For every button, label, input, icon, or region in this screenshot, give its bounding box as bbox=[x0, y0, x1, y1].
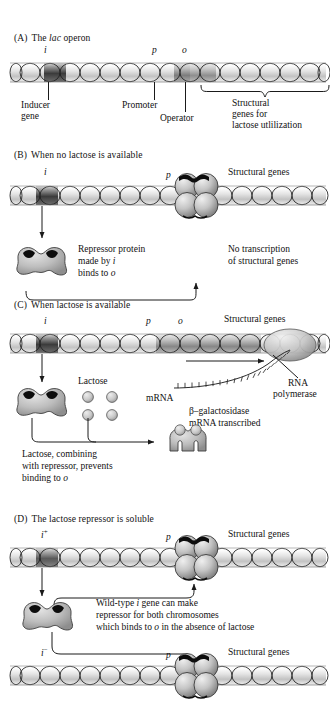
repressor-bound-to-operator-d-top bbox=[174, 534, 220, 582]
no-transcription-line2: of structural genes bbox=[228, 256, 298, 267]
lactose-caption-line1: Lactose, combining bbox=[22, 449, 97, 460]
inducer-leader-line bbox=[48, 82, 49, 100]
inducer-gene-label-line1: Inducer bbox=[21, 100, 50, 111]
repressor-caption-line2: made by i bbox=[78, 256, 115, 267]
repressor-binds-operator-arrow bbox=[24, 275, 204, 303]
wild-type-caption-line1-b: gene can make bbox=[139, 598, 198, 608]
i-gene-to-repressor-arrow-c bbox=[38, 354, 50, 388]
panel-b-tag: (B) bbox=[14, 150, 27, 160]
panel-d: (D)The lactose repressor is soluble i+ p… bbox=[0, 494, 336, 717]
panel-b-title: (B)When no lactose is available bbox=[14, 150, 142, 160]
soluble-repressor-protein bbox=[20, 600, 82, 632]
repressor-caption-i: i bbox=[113, 256, 116, 266]
lactose-repressor-complex bbox=[166, 424, 210, 454]
panel-b-structural-genes-label: Structural genes bbox=[228, 167, 289, 178]
panel-b: (B)When no lactose is available i p Stru… bbox=[0, 150, 336, 300]
panel-c-o-label: o bbox=[178, 316, 183, 326]
wild-type-caption-line2: repressor for both chromosomes bbox=[96, 610, 219, 621]
panel-d-structural-genes-top: Structural genes bbox=[228, 529, 289, 540]
inducer-gene-label-line2: gene bbox=[21, 111, 39, 122]
structural-genes-brace bbox=[200, 84, 330, 98]
lactose-caption-line3: binding to o bbox=[22, 473, 68, 484]
lactose-caption-line3-text: binding to bbox=[22, 473, 63, 483]
panel-a-o-label: o bbox=[182, 45, 187, 55]
panel-d-i-plus-label: i+ bbox=[41, 528, 48, 540]
panel-d-title-text: The lactose repressor is soluble bbox=[32, 514, 154, 524]
panel-b-p-label: p bbox=[166, 170, 171, 180]
panel-c-tag: (C) bbox=[14, 300, 27, 310]
panel-c-title: (C)When lactose is available bbox=[14, 300, 130, 310]
operator-leader-line bbox=[185, 82, 186, 112]
mrna-label: mRNA bbox=[146, 393, 173, 404]
panel-a-p-label: p bbox=[152, 45, 157, 55]
operator-label-text: Operator bbox=[160, 113, 194, 124]
repressor-bound-to-operator-d-bottom bbox=[174, 652, 220, 700]
i-gene-to-repressor-arrow bbox=[38, 206, 50, 244]
panel-c: (C)When lactose is available i p o Struc… bbox=[0, 300, 336, 490]
panel-a-title-text-2: operon bbox=[61, 33, 90, 43]
dna-strand-b bbox=[6, 181, 330, 211]
panel-d-i-plus-sup: + bbox=[44, 528, 48, 536]
repressor-caption-line2-text: made by bbox=[78, 256, 113, 266]
panel-d-i-minus-sup: − bbox=[44, 646, 48, 654]
rna-polymerase-leader-line bbox=[272, 354, 304, 380]
beta-galactosidase-line1: β–galactosidase bbox=[189, 406, 249, 417]
panel-c-i-label: i bbox=[44, 316, 47, 326]
structural-genes-line3: lactose utlilization bbox=[232, 120, 302, 131]
panel-a-title-italic: lac bbox=[49, 33, 61, 43]
panel-d-p-label-top: p bbox=[166, 532, 171, 542]
panel-a-title: (A)The lac operon bbox=[14, 33, 90, 43]
free-repressor-protein-c bbox=[14, 386, 76, 418]
structural-genes-line1: Structural bbox=[232, 98, 269, 109]
panel-a-tag: (A) bbox=[14, 33, 28, 43]
promoter-leader-line bbox=[154, 82, 155, 100]
wild-type-caption-line1-a: Wild-type bbox=[96, 598, 137, 608]
rna-polymerase-line1: RNA bbox=[288, 378, 308, 389]
repressor-caption-line1: Repressor protein bbox=[78, 244, 145, 255]
panel-c-title-text: When lactose is available bbox=[31, 300, 130, 310]
repressor-bound-to-operator bbox=[174, 172, 220, 220]
no-transcription-line1: No transcription bbox=[228, 244, 290, 255]
dna-strand-d-top bbox=[6, 543, 330, 573]
free-repressor-protein bbox=[14, 245, 76, 277]
panel-d-p-label-bottom: p bbox=[166, 650, 171, 660]
panel-c-p-label: p bbox=[146, 316, 151, 326]
lactose-label: Lactose bbox=[78, 376, 108, 387]
structural-genes-line2: genes for bbox=[232, 109, 267, 120]
panel-b-i-label: i bbox=[44, 167, 47, 177]
dna-strand-d-bottom bbox=[6, 661, 330, 691]
panel-a: (A)The lac operon i p o bbox=[0, 0, 336, 150]
rna-polymerase-line2: polymerase bbox=[273, 389, 317, 400]
panel-d-title: (D)The lactose repressor is soluble bbox=[14, 514, 154, 524]
panel-d-tag: (D) bbox=[14, 514, 28, 524]
wild-type-caption-line1: Wild-type i gene can make bbox=[96, 598, 198, 609]
promoter-label-text: Promoter bbox=[122, 100, 157, 111]
panel-a-i-label: i bbox=[44, 45, 47, 55]
i-plus-gene-arrow bbox=[38, 568, 50, 602]
lactose-caption-o: o bbox=[63, 473, 68, 483]
lactose-caption-line2: with repressor, prevents bbox=[22, 461, 113, 472]
transcription-direction-arrow bbox=[186, 356, 272, 366]
panel-a-title-text-1: The bbox=[32, 33, 50, 43]
panel-d-i-minus-label: i− bbox=[41, 646, 48, 658]
lactose-repressor-merge-arrow bbox=[30, 418, 164, 446]
panel-d-structural-genes-bottom: Structural genes bbox=[228, 647, 289, 658]
panel-c-structural-genes-label: Structural genes bbox=[224, 314, 285, 325]
panel-b-title-text: When no lactose is available bbox=[31, 150, 142, 160]
